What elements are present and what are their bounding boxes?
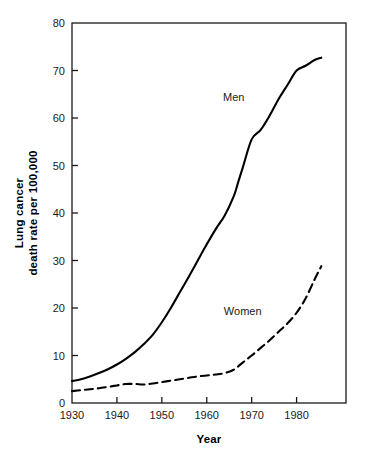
y-axis-title-line-2: death rate per 100,000 xyxy=(27,150,39,275)
series-label-men: Men xyxy=(223,91,244,103)
series-annotations: MenWomen xyxy=(223,91,262,317)
x-axis-ticks: 193019401950196019701980 xyxy=(60,397,309,421)
y-tick-label: 20 xyxy=(53,302,65,314)
x-tick-label: 1980 xyxy=(284,409,308,421)
y-tick-label: 70 xyxy=(53,65,65,77)
y-axis-title-line-1: Lung cancer xyxy=(13,177,25,248)
y-tick-label: 80 xyxy=(53,17,65,29)
series-line-women xyxy=(72,266,321,391)
x-tick-label: 1950 xyxy=(150,409,174,421)
plot-frame xyxy=(72,23,346,403)
series-label-women: Women xyxy=(224,305,262,317)
x-tick-label: 1960 xyxy=(195,409,219,421)
y-axis-title: Lung cancer death rate per 100,000 xyxy=(13,150,39,275)
y-axis-ticks: 01020304050607080 xyxy=(53,17,78,409)
data-series-group xyxy=(72,58,321,391)
y-tick-label: 10 xyxy=(53,350,65,362)
x-axis-title: Year xyxy=(196,433,221,445)
x-tick-label: 1970 xyxy=(239,409,263,421)
y-tick-label: 40 xyxy=(53,207,65,219)
x-tick-label: 1940 xyxy=(105,409,129,421)
chart-canvas: 01020304050607080 1930194019501960197019… xyxy=(0,0,368,465)
y-tick-label: 60 xyxy=(53,112,65,124)
plot-border xyxy=(72,23,346,403)
y-tick-label: 50 xyxy=(53,160,65,172)
y-tick-label: 30 xyxy=(53,255,65,267)
x-tick-label: 1930 xyxy=(60,409,84,421)
lung-cancer-death-rate-chart: 01020304050607080 1930194019501960197019… xyxy=(0,0,368,465)
y-tick-label: 0 xyxy=(59,397,65,409)
series-line-men xyxy=(72,58,321,381)
